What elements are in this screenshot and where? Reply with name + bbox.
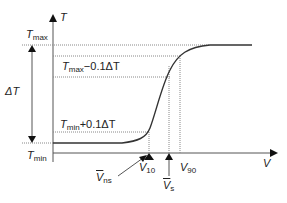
y-axis-arrow-icon [49, 14, 57, 22]
vns-label: Vns [96, 172, 112, 183]
v90-label: V90 [180, 162, 196, 173]
x-axis-arrow-icon [270, 149, 278, 157]
vs-label: Vs [163, 180, 174, 191]
delta-up-arrow-icon [28, 45, 36, 52]
lower-threshold-label: Tmin+0.1ΔT [60, 119, 115, 130]
y-axis-label: T [60, 12, 67, 23]
delta-t-label: ΔT [5, 86, 19, 97]
delta-down-arrow-icon [28, 136, 36, 143]
tmax-label: Tmax [26, 29, 48, 40]
v10-label: V10 [139, 162, 155, 173]
tmin-label: Tmin [27, 150, 47, 161]
x-axis-label: V [263, 158, 270, 169]
upper-threshold-label: Tmax−0.1ΔT [62, 61, 120, 72]
vs-arrow-icon [165, 153, 173, 160]
